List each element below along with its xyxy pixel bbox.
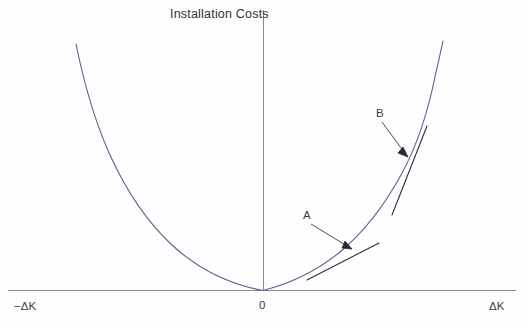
chart-title: Installation Costs — [170, 8, 269, 21]
tangent-line-a — [307, 243, 379, 280]
annotation-label-a: A — [303, 210, 311, 222]
annotation-arrow-a — [311, 224, 352, 249]
x-axis-left-label: −ΔK — [14, 301, 36, 313]
annotation-arrow-b — [382, 122, 408, 157]
origin-label: 0 — [259, 300, 265, 312]
cost-curve-right-branch — [263, 41, 443, 291]
chart-canvas — [0, 0, 525, 327]
x-axis-right-label: ΔK — [489, 301, 504, 313]
tangent-line-b — [392, 126, 427, 215]
installation-costs-figure: Installation Costs −ΔK ΔK 0 A B — [0, 0, 525, 327]
annotation-label-b: B — [376, 108, 384, 120]
cost-curve-left-branch — [76, 44, 263, 291]
